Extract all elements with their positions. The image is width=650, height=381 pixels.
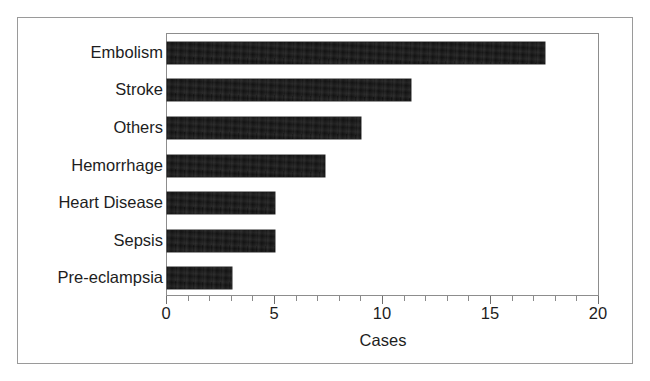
x-tick-minor	[188, 296, 189, 301]
y-tick-label-embolism: Embolism	[13, 44, 163, 61]
x-tick-major	[598, 296, 599, 304]
x-tick-minor	[404, 296, 405, 301]
y-tick-label-stroke: Stroke	[13, 81, 163, 98]
x-tick-label-5: 5	[244, 305, 304, 322]
x-tick-minor	[231, 296, 232, 301]
x-tick-label-20: 20	[568, 305, 628, 322]
x-tick-major	[166, 296, 167, 304]
x-tick-minor	[555, 296, 556, 301]
x-tick-label-10: 10	[352, 305, 412, 322]
x-tick-minor	[252, 296, 253, 301]
x-tick-minor	[512, 296, 513, 301]
plot-area	[166, 33, 599, 296]
x-axis-title: Cases	[166, 332, 600, 349]
y-tick-label-sepsis: Sepsis	[13, 232, 163, 249]
y-tick-label-heart-disease: Heart Disease	[13, 194, 163, 211]
x-tick-major	[274, 296, 275, 304]
x-tick-minor	[339, 296, 340, 301]
x-tick-minor	[209, 296, 210, 301]
x-tick-minor	[425, 296, 426, 301]
x-tick-label-0: 0	[136, 305, 196, 322]
y-tick-label-others: Others	[13, 119, 163, 136]
bar-embolism	[167, 42, 545, 64]
bar-pre-eclampsia	[167, 267, 232, 289]
bar-stroke	[167, 79, 411, 101]
bar-sepsis	[167, 230, 275, 252]
bar-heart-disease	[167, 192, 275, 214]
x-tick-minor	[468, 296, 469, 301]
y-axis-category-labels: Embolism Stroke Others Hemorrhage Heart …	[8, 33, 163, 296]
y-tick-label-pre-eclampsia: Pre-eclampsia	[13, 269, 163, 286]
x-axis-tick-labels: 0 5 10 15 20	[166, 305, 600, 329]
x-tick-minor	[533, 296, 534, 301]
y-tick-label-hemorrhage: Hemorrhage	[13, 157, 163, 174]
x-tick-minor	[576, 296, 577, 301]
x-tick-minor	[360, 296, 361, 301]
figure-container: Embolism Stroke Others Hemorrhage Heart …	[0, 0, 650, 381]
x-tick-minor	[317, 296, 318, 301]
x-tick-minor	[447, 296, 448, 301]
x-tick-minor	[296, 296, 297, 301]
x-tick-major	[490, 296, 491, 304]
x-tick-label-15: 15	[460, 305, 520, 322]
bar-others	[167, 117, 361, 139]
bar-hemorrhage	[167, 155, 325, 177]
x-tick-major	[382, 296, 383, 304]
bars-layer	[167, 34, 598, 295]
